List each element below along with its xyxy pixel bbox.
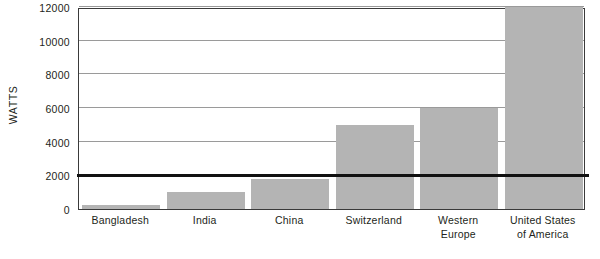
- y-tick-label: 8000: [45, 69, 70, 81]
- plot-area: [78, 8, 585, 210]
- y-tick-label: 4000: [45, 137, 70, 149]
- bar: [505, 7, 583, 209]
- y-tick-label: 0: [64, 204, 70, 216]
- y-tick-label: 2000: [45, 170, 70, 182]
- x-tick-label-line: Western: [438, 214, 478, 226]
- y-tick-label: 12000: [39, 2, 70, 14]
- x-tick-label-line: of America: [501, 228, 586, 242]
- y-tick-label: 10000: [39, 36, 70, 48]
- y-tick-label: 6000: [45, 103, 70, 115]
- x-tick-label-line: United States: [510, 214, 576, 226]
- y-axis-title-text: WATTS: [7, 86, 19, 125]
- bars-group: [79, 9, 584, 209]
- bar: [420, 108, 498, 209]
- bar: [336, 125, 414, 209]
- x-tick-label-line: Europe: [416, 228, 501, 242]
- x-tick-label-line: Switzerland: [346, 214, 402, 226]
- x-tick-label-line: India: [193, 214, 217, 226]
- x-tick-label: India: [163, 214, 248, 228]
- x-tick-label-line: China: [275, 214, 303, 226]
- y-axis-title: WATTS: [0, 0, 26, 210]
- reference-line-2000: [77, 174, 589, 177]
- bar-chart: WATTS 020004000600080001000012000 Bangla…: [0, 0, 600, 259]
- bar: [82, 205, 160, 209]
- bar: [251, 179, 329, 209]
- y-axis-tick-labels: 020004000600080001000012000: [26, 0, 74, 212]
- x-tick-label: Bangladesh: [78, 214, 163, 228]
- x-tick-label: Switzerland: [332, 214, 417, 228]
- bar: [167, 192, 245, 209]
- x-tick-label-line: Bangladesh: [92, 214, 149, 226]
- x-axis-tick-labels: BangladeshIndiaChinaSwitzerlandWesternEu…: [78, 214, 585, 259]
- x-tick-label: United Statesof America: [501, 214, 586, 241]
- x-tick-label: China: [247, 214, 332, 228]
- x-tick-label: WesternEurope: [416, 214, 501, 241]
